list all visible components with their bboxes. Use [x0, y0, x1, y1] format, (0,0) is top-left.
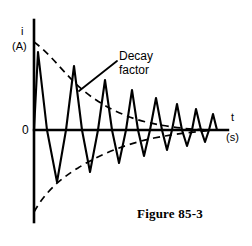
damped-oscillation-plot — [0, 0, 252, 246]
x-axis-unit-label: (s) — [226, 132, 239, 143]
x-axis-symbol-label: t — [231, 112, 234, 123]
decay-factor-leader-line — [79, 61, 117, 91]
decay-factor-line-2: factor — [119, 63, 153, 77]
decay-factor-line-1: Decay — [119, 49, 153, 63]
decay-factor-annotation: Decay factor — [119, 49, 153, 77]
y-axis-unit-label: (A) — [12, 41, 27, 52]
origin-zero-label: 0 — [22, 124, 29, 136]
figure-caption: Figure 85-3 — [137, 207, 203, 220]
figure-container: i (A) 0 t (s) Decay factor Figure 85-3 — [0, 0, 252, 246]
y-axis-symbol-label: i — [21, 26, 23, 37]
